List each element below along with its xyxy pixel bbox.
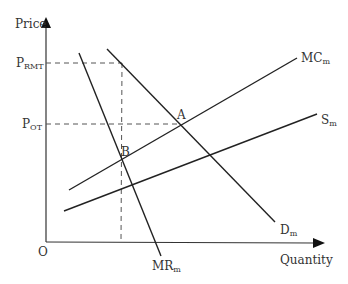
point-b-label: B xyxy=(121,145,130,159)
x-axis xyxy=(46,242,314,243)
x-axis-arrow-icon xyxy=(313,238,325,248)
mc-label: MCm xyxy=(301,51,330,66)
mr-label: MRm xyxy=(152,259,181,274)
p-rmt-label: PRMT xyxy=(16,56,44,71)
y-axis-label: Price xyxy=(15,17,46,31)
d-label: Dm xyxy=(280,223,298,238)
s-label: Sm xyxy=(321,113,337,128)
point-a-label: A xyxy=(176,108,186,122)
origin-label: O xyxy=(38,245,48,259)
mr-curve xyxy=(79,53,161,256)
x-axis-label: Quantity xyxy=(280,253,333,267)
monopsony-diagram: Price Quantity O PRMT POT MCm Sm Dm MRm … xyxy=(0,0,348,284)
supply-curve xyxy=(64,114,317,211)
demand-curve xyxy=(107,49,275,222)
p-ot-label: POT xyxy=(22,117,43,132)
